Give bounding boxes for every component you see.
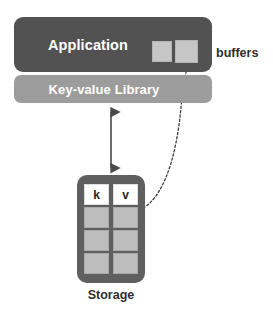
storage-block: k v xyxy=(77,175,145,283)
key-value-library-label: Key-value Library xyxy=(49,82,160,97)
buffer-square-1 xyxy=(152,41,172,62)
storage-table: k v xyxy=(84,184,138,274)
buffer-square-2 xyxy=(175,40,198,63)
storage-label: Storage xyxy=(77,288,145,302)
storage-cell-k-2 xyxy=(84,230,109,251)
storage-cell-v-3 xyxy=(113,253,138,274)
buffers-label: buffers xyxy=(216,46,258,60)
architecture-diagram: Application buffers Key-value Library k … xyxy=(0,0,273,314)
storage-column-header-k: k xyxy=(84,184,109,205)
storage-cell-v-1 xyxy=(113,207,138,228)
storage-cell-k-1 xyxy=(84,207,109,228)
key-value-library-block: Key-value Library xyxy=(14,75,212,103)
application-label: Application xyxy=(14,17,162,72)
storage-column-header-v: v xyxy=(113,184,138,205)
storage-cell-v-2 xyxy=(113,230,138,251)
storage-cell-k-3 xyxy=(84,253,109,274)
